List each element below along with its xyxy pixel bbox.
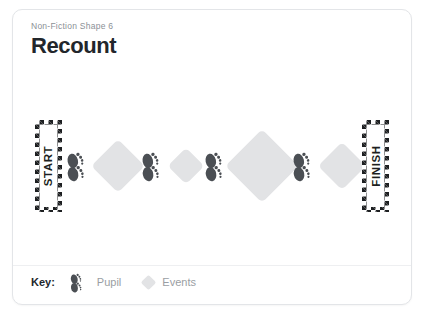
page-subtitle: Non-Fiction Shape 6 [31,20,116,32]
key-item-events: Events [143,276,196,288]
event-diamond [91,139,145,193]
footprints-icon [137,147,173,185]
key-label: Key: [31,276,55,288]
diamond-icon [141,274,157,290]
start-flag-label: START [43,146,55,186]
page-header: Non-Fiction Shape 6 Recount [31,20,116,59]
finish-flag: FINISH [362,120,389,212]
key-divider [13,265,411,266]
footprints-icon [69,272,89,293]
key-legend: Key: [31,270,218,294]
worksheet-card: Non-Fiction Shape 6 Recount START [12,9,412,305]
start-flag: START [35,120,62,212]
key-item-pupil: Pupil [69,272,121,293]
event-diamond [318,142,366,190]
page-title: Recount [31,33,116,59]
key-item-label: Pupil [97,276,121,288]
event-diamond [225,129,299,203]
journey-track: START [13,106,411,226]
key-item-label: Events [162,276,196,288]
finish-flag-label: FINISH [369,145,381,186]
